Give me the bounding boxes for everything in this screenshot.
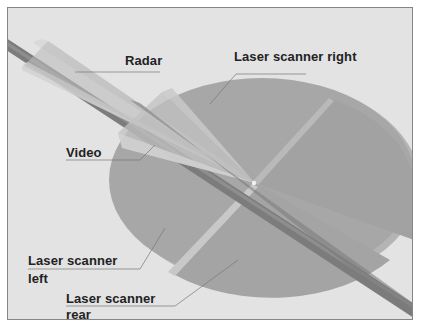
laser-scanner-right-label: Laser scanner right xyxy=(234,49,357,64)
video-label: Video xyxy=(66,145,102,160)
laser-scanner-rear-label-line2: rear xyxy=(66,307,91,322)
laser-scanner-left-label-line2: left xyxy=(28,271,48,286)
sensor-coverage-scene xyxy=(0,0,421,331)
sensor-origin xyxy=(252,181,256,185)
radar-label: Radar xyxy=(125,53,162,68)
laser-scanner-rear-label-line1: Laser scanner xyxy=(66,291,155,306)
laser-scanner-left-label-line1: Laser scanner xyxy=(28,253,117,268)
